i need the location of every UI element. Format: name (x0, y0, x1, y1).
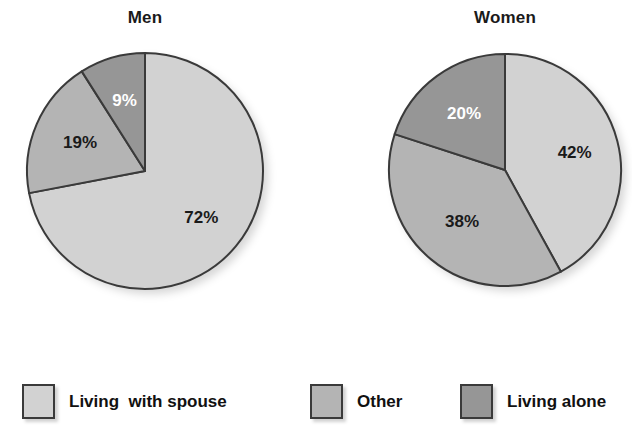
pie-chart-women: 42%38%20% (382, 45, 632, 299)
chart-title-women: Women (435, 8, 575, 28)
pie-svg-men: 72%19%9% (18, 45, 280, 303)
pie-slice-value-label: 9% (112, 91, 137, 110)
legend-label-living-with-spouse: Living with spouse (69, 392, 227, 412)
pie-slices-women (389, 54, 621, 286)
pie-slice-value-label: 20% (447, 104, 481, 123)
pie-svg-women: 42%38%20% (382, 45, 632, 299)
pie-slice-value-label: 38% (445, 212, 479, 231)
legend-swatch-icon-living-with-spouse (22, 384, 55, 419)
legend-item-other[interactable]: Other (310, 384, 402, 419)
legend-swatch-icon-other (310, 384, 343, 419)
legend-swatch-icon-living-alone (460, 384, 493, 419)
pie-slice-value-label: 42% (558, 143, 592, 162)
pie-chart-men: 72%19%9% (18, 45, 280, 303)
legend-label-other: Other (357, 392, 402, 412)
pie-slice-value-label: 19% (63, 133, 97, 152)
legend-item-living-alone[interactable]: Living alone (460, 384, 606, 419)
pie-slices-men (27, 53, 263, 289)
legend-item-living-with-spouse[interactable]: Living with spouse (22, 384, 227, 419)
legend: Living with spouse Other Living alone (0, 378, 633, 434)
legend-label-living-alone: Living alone (507, 392, 606, 412)
pie-chart-figure: Men 72%19%9% Women (0, 0, 633, 447)
chart-title-men: Men (75, 8, 215, 28)
pie-slice-value-label: 72% (184, 208, 218, 227)
